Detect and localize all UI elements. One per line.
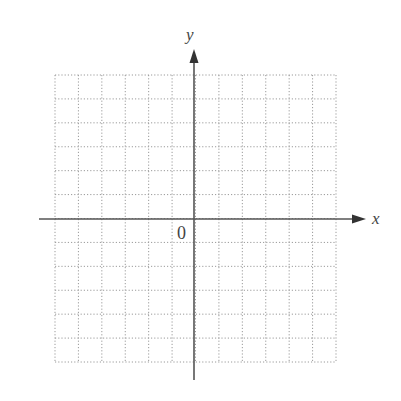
- coordinate-plane: y x 0: [0, 0, 401, 401]
- x-axis-label: x: [372, 210, 380, 227]
- x-axis-arrow-icon: [352, 215, 366, 224]
- y-axis-label: y: [186, 26, 194, 43]
- origin-label: 0: [177, 224, 186, 242]
- y-axis-arrow-icon: [190, 49, 199, 63]
- grid-svg: [0, 0, 401, 401]
